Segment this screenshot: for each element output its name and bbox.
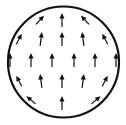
field-arrow	[72, 53, 77, 67]
field-arrow	[79, 14, 91, 26]
arrowhead-icon	[93, 53, 98, 59]
field-arrow	[60, 96, 65, 110]
field-arrow	[60, 13, 65, 27]
arrowhead-icon	[103, 75, 110, 82]
arrowhead-icon	[81, 74, 87, 80]
vector-field-figure	[0, 0, 126, 125]
field-arrow	[93, 53, 98, 67]
arrowhead-icon	[29, 53, 34, 59]
vector-field-svg	[0, 0, 126, 125]
field-arrow	[38, 74, 45, 89]
arrowhead-icon	[80, 32, 86, 38]
arrowhead-icon	[38, 74, 44, 80]
field-arrow	[14, 75, 24, 88]
field-arrow	[34, 14, 46, 26]
field-arrow	[80, 74, 87, 89]
arrowhead-icon	[100, 33, 107, 40]
field-arrow	[29, 53, 34, 67]
arrowhead-icon	[60, 32, 65, 38]
field-arrow	[50, 53, 55, 67]
field-arrow	[80, 32, 87, 47]
arrowhead-icon	[17, 33, 24, 40]
arrowhead-icon	[14, 75, 21, 82]
arrowhead-icon	[39, 32, 45, 38]
arrowhead-icon	[60, 13, 65, 19]
field-arrow	[100, 75, 110, 88]
arrowhead-icon	[60, 74, 65, 80]
field-arrow	[60, 74, 65, 88]
arrowhead-icon	[60, 96, 65, 102]
arrowhead-icon	[50, 53, 55, 59]
field-arrow	[60, 32, 65, 46]
arrowhead-icon	[72, 53, 77, 59]
field-arrow	[100, 33, 110, 46]
field-arrow	[38, 32, 45, 47]
